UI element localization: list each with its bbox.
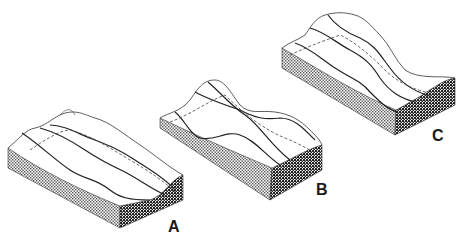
- block-b: [160, 80, 322, 200]
- block-a-contour-3: [50, 125, 175, 190]
- diagram-canvas: [0, 0, 460, 237]
- label-c: C: [432, 127, 444, 145]
- block-c-front-face: [395, 78, 455, 135]
- block-a-side-face: [8, 148, 120, 228]
- block-b-contour-2: [195, 92, 315, 140]
- block-b-front-face: [270, 145, 322, 200]
- block-a-contour-1: [22, 133, 150, 200]
- block-c-side-face: [282, 48, 396, 135]
- block-c: [282, 13, 455, 135]
- label-a: A: [168, 218, 180, 236]
- block-a: [8, 110, 183, 228]
- label-b: B: [316, 181, 328, 199]
